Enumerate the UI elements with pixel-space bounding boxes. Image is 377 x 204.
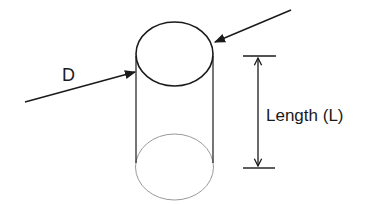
cylinder-top-ellipse bbox=[136, 22, 213, 86]
diagram-svg: D Length (L) bbox=[0, 0, 377, 204]
diameter-label: D bbox=[62, 65, 75, 85]
length-label: Length (L) bbox=[266, 106, 344, 125]
diameter-arrow-left bbox=[25, 72, 135, 102]
diameter-arrow-right bbox=[215, 10, 291, 42]
cylinder-diagram: D Length (L) bbox=[0, 0, 377, 204]
cylinder-bottom-ellipse bbox=[136, 134, 214, 200]
